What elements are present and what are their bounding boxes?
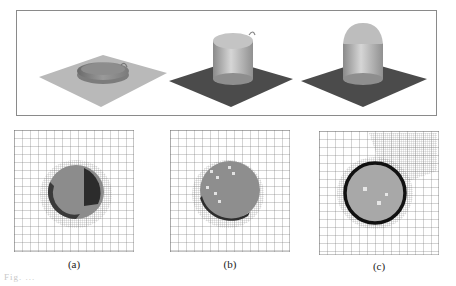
panel-label-c: (c) [359, 260, 399, 272]
mesh-panel-a [14, 130, 134, 252]
render-frame [16, 10, 437, 116]
render-b [165, 17, 295, 109]
mesh-panel-b [170, 130, 290, 252]
panel-label-b: (b) [210, 258, 250, 270]
panel-label-a: (a) [54, 258, 94, 270]
mesh-panel-c [319, 131, 439, 253]
figure-caption: Fig. ... [4, 272, 35, 282]
render-c [299, 17, 429, 109]
render-a [39, 21, 169, 107]
